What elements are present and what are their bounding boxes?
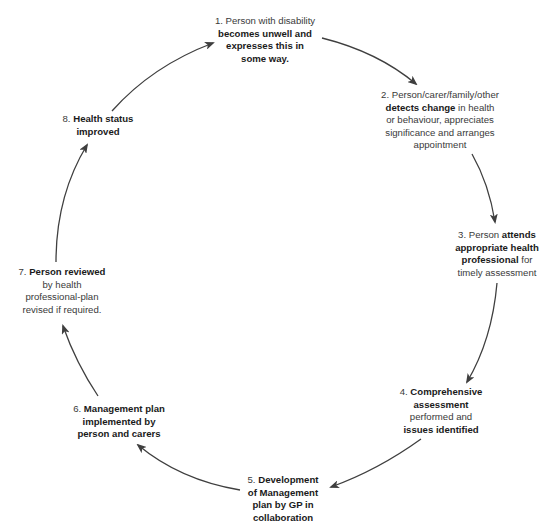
- arrow-8-to-1: [112, 43, 213, 111]
- text: 7.: [19, 266, 30, 277]
- node-line: some way.: [215, 53, 315, 66]
- node-line: professional for: [455, 254, 539, 267]
- text: performed and: [410, 411, 472, 422]
- node-line: appropriate health: [455, 242, 539, 255]
- text: 8.: [63, 113, 74, 124]
- arrow-4-to-5: [331, 439, 421, 487]
- arrow-3-to-4: [467, 283, 497, 382]
- bold-text: assessment: [414, 399, 469, 410]
- node-line: 1. Person with disability: [215, 15, 315, 28]
- node-2-detects-change: 2. Person/carer/family/otherdetects chan…: [381, 89, 499, 152]
- text: in health: [455, 102, 494, 113]
- node-line: issues identified: [400, 424, 483, 437]
- text: 1. Person with disability: [215, 15, 315, 26]
- node-6-plan-implemented: 6. Management planimplemented byperson a…: [73, 403, 165, 441]
- node-line: 3. Person attends: [455, 229, 539, 242]
- node-line: professional-plan: [19, 291, 106, 304]
- bold-text: attends: [502, 229, 536, 240]
- bold-text: expresses this in: [226, 40, 304, 51]
- node-1-becomes-unwell: 1. Person with disabilitybecomes unwell …: [215, 15, 315, 65]
- node-line: by health: [19, 279, 106, 292]
- node-line: appointment: [381, 139, 499, 152]
- text: significance and arranges: [385, 127, 494, 138]
- node-line: collaboration: [248, 512, 319, 524]
- node-line: 2. Person/carer/family/other: [381, 89, 499, 102]
- node-line: 4. Comprehensive: [400, 386, 483, 399]
- text: appointment: [414, 139, 467, 150]
- node-line: improved: [63, 126, 134, 139]
- bold-text: professional: [462, 254, 519, 265]
- node-line: 8. Health status: [63, 113, 134, 126]
- node-line: plan by GP in: [248, 499, 319, 512]
- bold-text: collaboration: [253, 512, 313, 523]
- node-line: expresses this in: [215, 40, 315, 53]
- bold-text: issues identified: [403, 424, 478, 435]
- node-4-comprehensive-assessment: 4. Comprehensiveassessmentperformed andi…: [400, 386, 483, 436]
- text: 3. Person: [458, 229, 502, 240]
- bold-text: improved: [76, 126, 119, 137]
- bold-text: person and carers: [77, 428, 160, 439]
- node-line: timely assessment: [455, 267, 539, 280]
- node-line: implemented by: [73, 416, 165, 429]
- bold-text: Person reviewed: [29, 266, 105, 277]
- text: 6.: [73, 403, 84, 414]
- text: timely assessment: [458, 267, 537, 278]
- node-3-attends-professional: 3. Person attendsappropriate healthprofe…: [455, 229, 539, 279]
- arrow-1-to-2: [322, 38, 416, 84]
- text: 2. Person/carer/family/other: [381, 89, 499, 100]
- node-line: assessment: [400, 399, 483, 412]
- node-5-management-plan-development: 5. Developmentof Managementplan by GP in…: [248, 474, 319, 524]
- node-line: of Management: [248, 487, 319, 500]
- arrow-5-to-6: [138, 445, 240, 490]
- text: 5.: [248, 474, 259, 485]
- text: 4.: [400, 386, 411, 397]
- bold-text: appropriate health: [455, 242, 539, 253]
- arrow-6-to-7: [63, 326, 98, 396]
- node-line: becomes unwell and: [215, 28, 315, 41]
- bold-text: Comprehensive: [410, 386, 482, 397]
- node-line: significance and arranges: [381, 127, 499, 140]
- arrow-2-to-3: [472, 154, 495, 222]
- node-line: 6. Management plan: [73, 403, 165, 416]
- bold-text: Health status: [73, 113, 133, 124]
- node-line: detects change in health: [381, 102, 499, 115]
- bold-text: some way.: [241, 53, 289, 64]
- bold-text: Development: [258, 474, 318, 485]
- text: for: [519, 254, 533, 265]
- node-line: or behaviour, appreciates: [381, 114, 499, 127]
- text: or behaviour, appreciates: [386, 114, 494, 125]
- node-7-person-reviewed: 7. Person reviewedby healthprofessional-…: [19, 266, 106, 316]
- bold-text: Management plan: [84, 403, 165, 414]
- bold-text: becomes unwell and: [218, 28, 312, 39]
- node-line: revised if required.: [19, 304, 106, 317]
- arrow-7-to-8: [56, 145, 87, 262]
- node-line: 5. Development: [248, 474, 319, 487]
- node-line: performed and: [400, 411, 483, 424]
- bold-text: detects change: [386, 102, 456, 113]
- node-8-health-improved: 8. Health statusimproved: [63, 113, 134, 138]
- bold-text: implemented by: [82, 416, 155, 427]
- node-line: 7. Person reviewed: [19, 266, 106, 279]
- node-line: person and carers: [73, 428, 165, 441]
- text: revised if required.: [23, 304, 102, 315]
- text: by health: [43, 279, 82, 290]
- bold-text: of Management: [248, 487, 318, 498]
- bold-text: plan by GP in: [252, 499, 313, 510]
- text: professional-plan: [25, 291, 98, 302]
